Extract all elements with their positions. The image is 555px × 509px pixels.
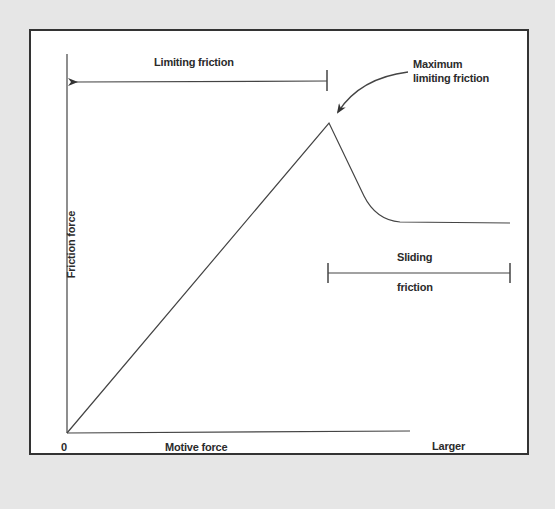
limiting-friction-label: Limiting friction xyxy=(154,56,234,69)
y-axis-label: Friction force xyxy=(65,200,78,290)
limiting-friction-arrow xyxy=(76,81,327,82)
x-axis-label: Motive force xyxy=(165,441,227,454)
maximum-pointer-arrow xyxy=(338,72,408,112)
larger-label: Larger xyxy=(432,440,465,453)
maximum-label-line2: limiting friction xyxy=(413,72,489,85)
sliding-label: Sliding xyxy=(397,251,432,264)
maximum-label-line1: Maximum xyxy=(413,58,462,71)
x-axis xyxy=(67,431,410,433)
friction-label: friction xyxy=(397,281,433,294)
friction-curve xyxy=(67,123,510,433)
origin-label: 0 xyxy=(61,441,67,454)
